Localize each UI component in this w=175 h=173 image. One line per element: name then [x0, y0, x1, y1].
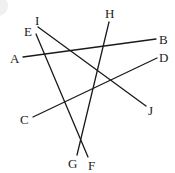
- line-diagram: A B C D E F G H I J: [0, 0, 175, 173]
- label-d: D: [159, 50, 168, 65]
- segment-gh: [77, 22, 109, 155]
- point-labels: A B C D E F G H I J: [10, 6, 168, 173]
- segment-ab: [23, 39, 156, 57]
- label-j: J: [148, 103, 153, 118]
- label-f: F: [88, 158, 95, 173]
- label-h: H: [105, 6, 114, 21]
- label-a: A: [10, 51, 20, 66]
- label-c: C: [20, 112, 29, 127]
- label-e: E: [24, 24, 32, 39]
- segments: [23, 22, 157, 157]
- segment-ef: [36, 34, 88, 157]
- segment-cd: [33, 58, 157, 117]
- label-i: I: [35, 13, 39, 28]
- label-b: B: [159, 32, 168, 47]
- label-g: G: [68, 156, 77, 171]
